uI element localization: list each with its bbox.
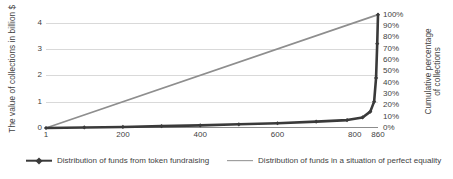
series-marker <box>376 13 380 17</box>
y-tick-right-3: 70% <box>383 45 399 53</box>
chart-legend: Distribution of funds from token fundrai… <box>26 156 441 165</box>
y-tick-right-8: 20% <box>383 101 399 109</box>
y-tick-right-7: 30% <box>383 90 399 98</box>
y-tick-right-4: 60% <box>383 56 399 64</box>
y-axis-right-title-line1: Cumulative percentage <box>424 28 433 114</box>
y-tick-right-0: 100% <box>383 11 403 19</box>
series-layer <box>46 12 378 128</box>
chart-container: The value of collections in billion $ Cu… <box>0 0 453 179</box>
y-tick-left-0: 0 <box>38 124 42 132</box>
legend-item-0[interactable]: Distribution of funds from token fundrai… <box>26 156 209 165</box>
x-tick-4: 800 <box>348 131 361 139</box>
series-marker <box>237 122 241 126</box>
y-tick-left-2: 2 <box>38 71 42 79</box>
x-tick-0: 1 <box>44 131 48 139</box>
legend-label: Distribution of funds from token fundrai… <box>57 156 209 165</box>
plot-area <box>46 12 378 128</box>
legend-swatch-icon <box>227 156 253 165</box>
y-tick-right-10: 0% <box>383 124 395 132</box>
x-tick-2: 400 <box>194 131 207 139</box>
y-axis-right-title: Cumulative percentage of collections <box>424 6 443 136</box>
y-axis-right-ticks: 100%90%80%70%60%50%40%30%20%10%0% <box>383 12 409 128</box>
y-tick-right-6: 40% <box>383 79 399 87</box>
x-tick-1: 200 <box>116 131 129 139</box>
y-tick-right-9: 10% <box>383 113 399 121</box>
y-tick-right-2: 80% <box>383 33 399 41</box>
legend-item-1[interactable]: Distribution of funds in a situation of … <box>227 156 441 165</box>
y-axis-left-ticks: 01234 <box>28 12 42 128</box>
series-marker <box>198 123 202 127</box>
series-marker <box>314 120 318 124</box>
y-axis-right-title-line2: of collections <box>433 6 442 136</box>
series-line-distribution-of-funds-in-a-situation-of-perfect-equality <box>46 15 378 128</box>
x-axis-ticks: 1200400600800860 <box>46 131 378 143</box>
legend-label: Distribution of funds in a situation of … <box>258 156 441 165</box>
y-tick-left-1: 1 <box>38 98 42 106</box>
series-marker <box>82 125 86 129</box>
y-tick-right-5: 50% <box>383 67 399 75</box>
y-axis-left-title: The value of collections in billion $ <box>8 4 17 134</box>
y-tick-left-4: 4 <box>38 19 42 27</box>
y-tick-right-1: 90% <box>383 22 399 30</box>
series-marker <box>121 125 125 129</box>
series-marker <box>275 121 279 125</box>
x-tick-5: 860 <box>371 131 384 139</box>
series-marker <box>375 42 379 46</box>
series-marker <box>374 76 378 80</box>
y-tick-left-3: 3 <box>38 45 42 53</box>
x-tick-3: 600 <box>271 131 284 139</box>
series-marker <box>159 124 163 128</box>
legend-swatch-icon <box>26 156 52 165</box>
